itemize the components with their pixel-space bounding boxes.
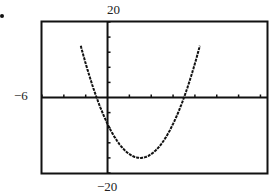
parabola-curve xyxy=(81,46,200,158)
graph-plot xyxy=(0,0,277,196)
